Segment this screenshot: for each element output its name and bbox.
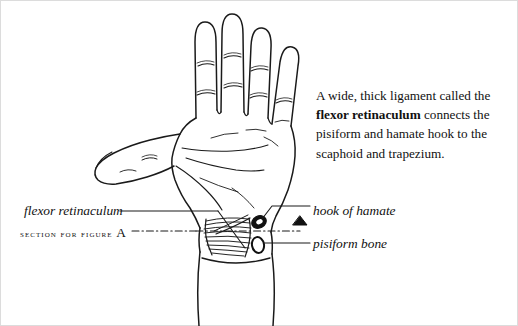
- label-pisiform-bone: pisiform bone: [313, 236, 387, 252]
- caption-bold-term: flexor retinaculum: [316, 107, 421, 122]
- label-section-for-figure-text: section for figure: [20, 228, 116, 239]
- caption-line-2-rest: connects the: [421, 107, 490, 122]
- label-section-for-figure: section for figure A: [20, 225, 126, 241]
- anatomy-figure: A wide, thick ligament called the flexor…: [0, 0, 518, 326]
- figure-caption: A wide, thick ligament called the flexor…: [316, 86, 512, 163]
- caption-line-4: scaphoid and trapezium.: [316, 146, 445, 161]
- label-flexor-retinaculum: flexor retinaculum: [24, 203, 123, 219]
- label-section-figure-letter: A: [116, 225, 126, 240]
- caption-line-3: pisiform and hamate hook to the: [316, 126, 487, 141]
- hand-illustration: [0, 0, 518, 326]
- label-hook-of-hamate: hook of hamate: [313, 203, 396, 219]
- caption-line-1: A wide, thick ligament called the: [316, 88, 490, 103]
